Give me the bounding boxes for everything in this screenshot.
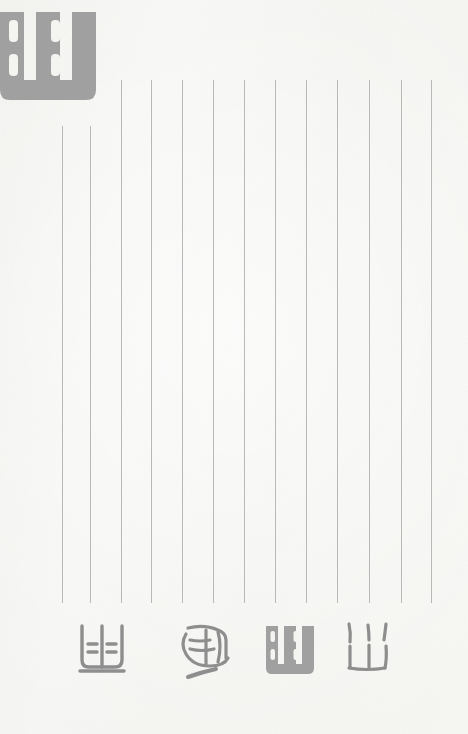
glyph-layer xyxy=(0,0,468,734)
large-glyph-top-left xyxy=(0,6,104,102)
manuscript-page xyxy=(0,0,468,734)
bottom-glyph-2 xyxy=(176,622,232,686)
bottom-glyph-3 xyxy=(262,622,318,686)
bottom-glyph-4 xyxy=(342,620,396,686)
bottom-glyph-1 xyxy=(76,622,128,686)
